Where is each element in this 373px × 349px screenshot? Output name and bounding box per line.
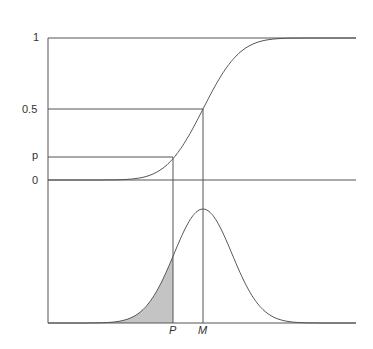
shaded-probability-area [48, 256, 173, 323]
label-half: 0.5 [22, 104, 37, 115]
diagram: 1 0.5 p 0 P M [0, 0, 373, 349]
label-P: P [169, 325, 176, 336]
pdf-curve [48, 209, 356, 323]
label-p: p [32, 150, 38, 161]
label-one: 1 [33, 32, 39, 43]
label-zero: 0 [32, 175, 38, 186]
label-M: M [198, 325, 207, 336]
cdf-pdf-diagram [0, 0, 373, 349]
